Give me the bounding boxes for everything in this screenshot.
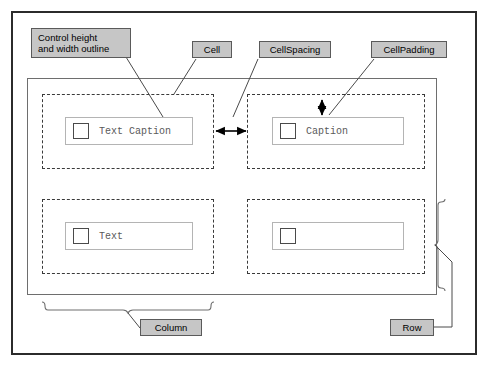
callout-cellpadding[interactable]: CellPadding bbox=[371, 41, 447, 58]
callout-cellspacing[interactable]: CellSpacing bbox=[259, 41, 331, 58]
leader-line-cell bbox=[174, 59, 196, 94]
row-brace bbox=[435, 199, 445, 291]
callout-column-text: Column bbox=[155, 322, 188, 334]
diagram-canvas: Text Caption Caption Text bbox=[0, 0, 491, 368]
callout-column[interactable]: Column bbox=[140, 319, 202, 336]
callout-row-text: Row bbox=[402, 322, 421, 334]
column-brace bbox=[42, 302, 214, 313]
leader-line-control-outline bbox=[126, 57, 163, 117]
callout-row[interactable]: Row bbox=[390, 319, 434, 336]
callout-cell-text: Cell bbox=[204, 44, 220, 56]
callout-cellpadding-text: CellPadding bbox=[383, 44, 434, 56]
callout-control-outline-text: Control height and width outline bbox=[38, 32, 109, 55]
leader-line-row bbox=[434, 245, 452, 327]
callout-line-1: Control height bbox=[38, 32, 97, 43]
leader-line-cellspacing bbox=[233, 59, 258, 117]
callout-control-outline[interactable]: Control height and width outline bbox=[31, 28, 131, 58]
callout-cell[interactable]: Cell bbox=[192, 41, 232, 58]
leader-line-column bbox=[128, 313, 140, 328]
callout-cellspacing-text: CellSpacing bbox=[270, 44, 321, 56]
callout-line-2: and width outline bbox=[38, 43, 109, 54]
leader-line-cellpadding bbox=[329, 59, 374, 115]
